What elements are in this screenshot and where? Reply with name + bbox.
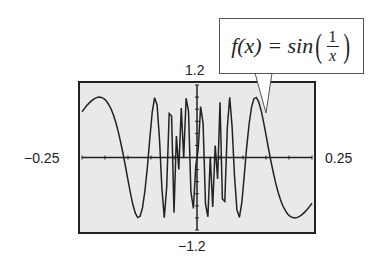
left-paren: ( — [315, 29, 322, 63]
fraction: 1 x — [327, 29, 339, 64]
x-min-label: −0.25 — [24, 150, 59, 166]
fraction-denominator: x — [329, 47, 336, 64]
y-min-label: −1.2 — [178, 238, 206, 254]
fraction-numerator: 1 — [327, 29, 339, 47]
x-max-label: 0.25 — [325, 150, 352, 166]
function-lhs: f(x) = sin — [231, 33, 313, 59]
y-max-label: 1.2 — [185, 62, 204, 78]
function-label: f(x) = sin ( 1 x ) — [220, 19, 363, 73]
callout-pointer — [255, 73, 272, 113]
function-callout: f(x) = sin ( 1 x ) — [219, 18, 364, 74]
right-paren: ) — [343, 29, 350, 63]
